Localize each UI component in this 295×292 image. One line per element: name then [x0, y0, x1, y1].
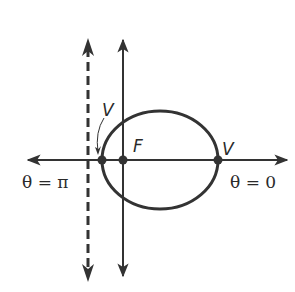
focus-point — [119, 156, 128, 165]
focus-label: F — [133, 136, 143, 156]
vertex-left-label: V — [102, 100, 115, 120]
theta-zero-label: θ = 0 — [230, 172, 276, 192]
vertex-left-point — [98, 156, 107, 165]
vertex-right-label: V — [222, 139, 235, 159]
theta-pi-label: θ = π — [22, 172, 68, 192]
vertex-pointer-arrowhead-icon — [95, 146, 101, 155]
polar-ellipse-diagram: V F V θ = π θ = 0 — [0, 0, 295, 292]
